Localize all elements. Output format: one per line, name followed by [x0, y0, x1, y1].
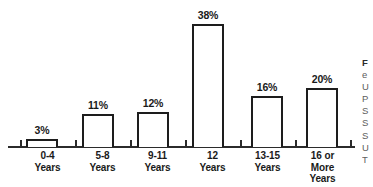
bar-group: 20%: [306, 0, 338, 147]
bar[interactable]: [306, 88, 338, 147]
caption-line: S: [362, 117, 373, 129]
bar-value-label: 16%: [257, 82, 278, 93]
bar[interactable]: [251, 96, 283, 147]
bar-group: 16%: [251, 0, 283, 147]
bars-layer: 3% 11% 12% 38% 16%: [0, 0, 373, 147]
axis-tick: [350, 140, 352, 147]
category-label-0-4-years: 0-4 Years: [20, 150, 75, 173]
axis-tick: [20, 140, 22, 147]
axis-tick: [295, 140, 297, 147]
axis-tick: [185, 140, 187, 147]
bar-value-label: 20%: [312, 74, 333, 85]
caption-line: U: [362, 81, 373, 93]
axis-tick: [240, 140, 242, 147]
caption-line: T: [362, 154, 373, 166]
caption-line: U: [362, 142, 373, 154]
category-label-13-15-years: 13-15 Years: [240, 150, 295, 173]
clipped-caption-text: F e U P S S S U T: [362, 57, 373, 177]
bar[interactable]: [82, 114, 114, 147]
bar-group: 12%: [137, 0, 169, 147]
bar-value-label: 12%: [143, 98, 164, 109]
bar-group: 3%: [26, 0, 58, 147]
bar[interactable]: [26, 139, 58, 147]
bar-chart: 3% 11% 12% 38% 16%: [0, 0, 373, 187]
bar[interactable]: [192, 24, 224, 147]
axis-tick: [75, 140, 77, 147]
caption-line: S: [362, 130, 373, 142]
bar-group: 11%: [82, 0, 114, 147]
bar-value-label: 38%: [198, 10, 219, 21]
category-label-16-or-more-years: 16 or More Years: [295, 150, 350, 185]
bar-group: 38%: [192, 0, 224, 147]
caption-line: F: [362, 57, 373, 69]
category-label-12-years: 12 Years: [185, 150, 240, 173]
caption-line: P: [362, 93, 373, 105]
category-label-9-11-years: 9-11 Years: [130, 150, 185, 173]
axis-tick: [130, 140, 132, 147]
bar-value-label: 11%: [88, 100, 108, 111]
chart-screenshot: 3% 11% 12% 38% 16%: [0, 0, 373, 187]
caption-line: e: [362, 69, 373, 81]
bar[interactable]: [137, 112, 169, 147]
bar-value-label: 3%: [35, 125, 50, 136]
category-label-5-8-years: 5-8 Years: [75, 150, 130, 173]
caption-line: S: [362, 105, 373, 117]
